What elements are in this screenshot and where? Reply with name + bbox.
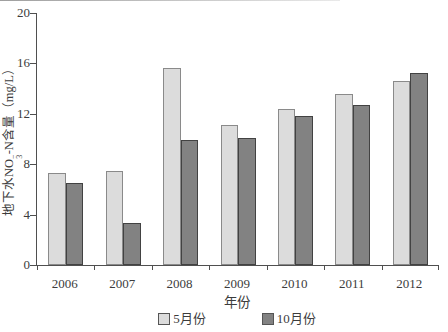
bar-2008-10月份 — [181, 140, 199, 265]
y-tick-mark-8 — [30, 164, 36, 165]
x-tick-mark-6 — [382, 265, 383, 270]
x-tick-mark-2 — [152, 265, 153, 270]
groundwater-no3n-bar-chart: 地下水NO−3-N含量（mg/L） 048121620 200620072008… — [0, 0, 448, 332]
y-tick-label-8: 8 — [0, 156, 30, 172]
bar-2011-5月份 — [335, 94, 353, 265]
x-tick-mark-4 — [267, 265, 268, 270]
x-tick-label-2008: 2008 — [151, 276, 209, 292]
x-tick-mark-5 — [324, 265, 325, 270]
scan-border-artifact — [0, 0, 340, 1]
x-tick-mark-0 — [37, 265, 38, 270]
x-tick-label-2007: 2007 — [93, 276, 151, 292]
legend-item-10月份: 10月份 — [262, 310, 316, 327]
legend-label-10月份: 10月份 — [277, 311, 316, 326]
y-tick-label-16: 16 — [0, 55, 30, 71]
x-axis-label: 年份 — [36, 295, 438, 310]
y-tick-label-20: 20 — [0, 5, 30, 21]
y-tick-mark-0 — [30, 265, 36, 266]
y-tick-mark-12 — [30, 114, 36, 115]
x-tick-label-2009: 2009 — [208, 276, 266, 292]
bar-2008-5月份 — [163, 68, 181, 265]
x-tick-label-2006: 2006 — [36, 276, 94, 292]
x-tick-mark-7 — [438, 265, 439, 270]
x-tick-label-2011: 2011 — [323, 276, 381, 292]
bar-2006-10月份 — [66, 183, 84, 265]
bar-2006-5月份 — [48, 173, 66, 265]
x-tick-mark-1 — [94, 265, 95, 270]
y-tick-mark-16 — [30, 63, 36, 64]
x-tick-label-2010: 2010 — [265, 276, 323, 292]
legend: 5月份10月份 — [36, 310, 438, 327]
x-tick-label-2012: 2012 — [380, 276, 438, 292]
y-tick-label-4: 4 — [0, 207, 30, 223]
legend-swatch-10月份 — [262, 313, 274, 325]
y-tick-mark-20 — [30, 13, 36, 14]
bar-2012-10月份 — [410, 73, 428, 265]
bar-2010-10月份 — [295, 116, 313, 265]
plot-area — [36, 13, 439, 266]
y-tick-label-12: 12 — [0, 106, 30, 122]
bar-2010-5月份 — [278, 109, 296, 265]
x-tick-mark-3 — [209, 265, 210, 270]
y-tick-label-0: 0 — [0, 257, 30, 273]
y-tick-mark-4 — [30, 215, 36, 216]
bar-2011-10月份 — [353, 105, 371, 265]
legend-label-5月份: 5月份 — [173, 311, 206, 326]
bar-2009-10月份 — [238, 138, 256, 265]
bar-2012-5月份 — [393, 81, 411, 265]
bar-2009-5月份 — [221, 125, 239, 265]
legend-item-5月份: 5月份 — [158, 310, 206, 327]
bar-2007-10月份 — [123, 223, 141, 265]
bar-2007-5月份 — [106, 171, 124, 266]
legend-swatch-5月份 — [158, 313, 170, 325]
